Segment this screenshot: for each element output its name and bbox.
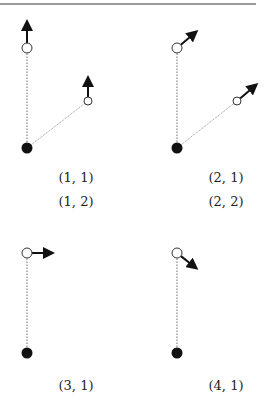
panel-1 bbox=[22, 22, 93, 154]
velocity-arrow-icon bbox=[240, 85, 256, 98]
panel-4 bbox=[172, 248, 197, 359]
panel-3 bbox=[22, 248, 53, 359]
open-bob-circle-1 bbox=[172, 248, 182, 258]
open-bob-circle-1 bbox=[22, 43, 32, 53]
pivot-filled-circle bbox=[172, 143, 183, 154]
label-mode-1-2: (1, 2) bbox=[59, 194, 94, 209]
label-mode-1-1: (1, 1) bbox=[59, 170, 94, 185]
label-mode-3-1: (3, 1) bbox=[59, 378, 94, 393]
pendulum-rod-2 bbox=[177, 101, 237, 148]
pivot-filled-circle bbox=[22, 143, 33, 154]
panels-layer bbox=[22, 22, 257, 359]
panel-2 bbox=[172, 32, 257, 154]
velocity-arrow-icon bbox=[181, 256, 196, 268]
label-mode-2-1: (2, 1) bbox=[209, 170, 244, 185]
open-bob-circle-2 bbox=[84, 97, 92, 105]
open-bob-circle-2 bbox=[233, 97, 241, 105]
label-mode-2-2: (2, 2) bbox=[209, 194, 244, 209]
velocity-arrow-icon bbox=[181, 32, 196, 45]
open-bob-circle-1 bbox=[172, 43, 182, 53]
pivot-filled-circle bbox=[22, 348, 33, 359]
pivot-filled-circle bbox=[172, 348, 183, 359]
pendulum-rod-2 bbox=[27, 101, 88, 148]
open-bob-circle-1 bbox=[22, 248, 32, 258]
label-mode-4-1: (4, 1) bbox=[209, 378, 244, 393]
